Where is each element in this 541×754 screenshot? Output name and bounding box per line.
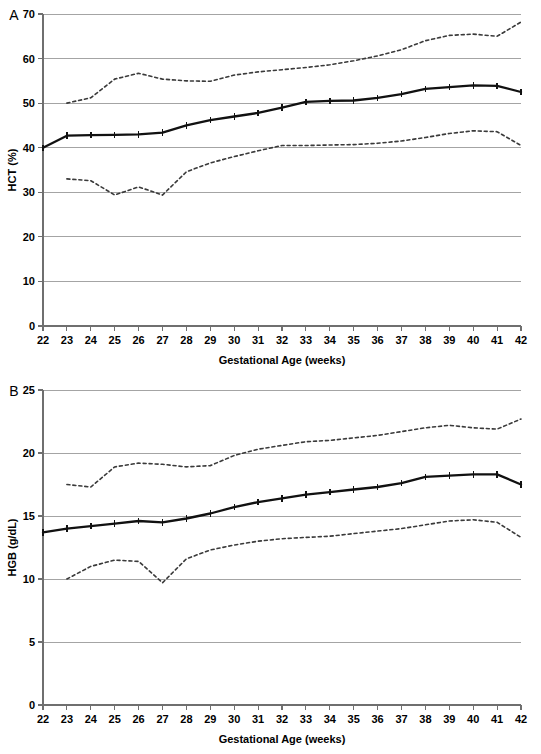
y-tick-label-15: 15 bbox=[23, 510, 35, 522]
x-tick-label-27: 27 bbox=[156, 334, 168, 346]
x-tick-label-42: 42 bbox=[515, 334, 527, 346]
x-tick-label-37: 37 bbox=[395, 713, 407, 725]
x-tick-label-39: 39 bbox=[443, 713, 455, 725]
y-tick-label-0: 0 bbox=[29, 699, 35, 711]
y-tick-label-70: 70 bbox=[23, 8, 35, 20]
x-tick-label-28: 28 bbox=[180, 713, 192, 725]
y-tick-label-5: 5 bbox=[29, 636, 35, 648]
series-line-95th-percentile bbox=[67, 22, 521, 103]
x-tick-label-25: 25 bbox=[109, 334, 121, 346]
x-axis-title: Gestational Age (weeks) bbox=[219, 733, 346, 745]
x-tick-label-30: 30 bbox=[228, 713, 240, 725]
y-tick-label-60: 60 bbox=[23, 53, 35, 65]
y-tick-label-25: 25 bbox=[23, 384, 35, 396]
x-tick-label-34: 34 bbox=[324, 713, 337, 725]
x-tick-label-32: 32 bbox=[276, 334, 288, 346]
x-tick-label-35: 35 bbox=[348, 713, 360, 725]
y-tick-label-30: 30 bbox=[23, 186, 35, 198]
x-axis-title: Gestational Age (weeks) bbox=[219, 354, 346, 366]
x-tick-label-39: 39 bbox=[443, 334, 455, 346]
series-line-5th-percentile bbox=[67, 520, 521, 583]
chart-panel-a: 0102030405060702223242526272829303132333… bbox=[0, 0, 541, 375]
y-tick-label-20: 20 bbox=[23, 447, 35, 459]
x-tick-label-31: 31 bbox=[252, 334, 264, 346]
y-tick-label-10: 10 bbox=[23, 573, 35, 585]
x-tick-label-23: 23 bbox=[61, 713, 73, 725]
y-tick-label-20: 20 bbox=[23, 231, 35, 243]
x-tick-label-28: 28 bbox=[180, 334, 192, 346]
y-tick-label-50: 50 bbox=[23, 97, 35, 109]
x-tick-label-22: 22 bbox=[37, 334, 49, 346]
y-tick-label-10: 10 bbox=[23, 275, 35, 287]
x-tick-label-33: 33 bbox=[300, 334, 312, 346]
x-tick-label-42: 42 bbox=[515, 713, 527, 725]
x-tick-label-26: 26 bbox=[132, 713, 144, 725]
chart-b-svg: 0510152025222324252627282930313233343536… bbox=[0, 375, 541, 754]
y-axis-title: HGB (g/dL) bbox=[6, 518, 18, 576]
x-tick-label-36: 36 bbox=[371, 713, 383, 725]
x-tick-label-41: 41 bbox=[491, 713, 503, 725]
x-tick-label-38: 38 bbox=[419, 334, 431, 346]
x-tick-label-32: 32 bbox=[276, 713, 288, 725]
y-axis-title: HCT (%) bbox=[6, 148, 18, 191]
x-tick-label-24: 24 bbox=[85, 713, 98, 725]
x-tick-label-29: 29 bbox=[204, 334, 216, 346]
y-tick-label-40: 40 bbox=[23, 142, 35, 154]
x-tick-label-22: 22 bbox=[37, 713, 49, 725]
x-tick-label-33: 33 bbox=[300, 713, 312, 725]
x-tick-label-38: 38 bbox=[419, 713, 431, 725]
series-line-5th-percentile bbox=[67, 131, 521, 195]
series-line-median bbox=[43, 85, 521, 147]
panel-letter: B bbox=[9, 383, 18, 399]
panel-letter: A bbox=[9, 7, 19, 23]
x-tick-label-24: 24 bbox=[85, 334, 98, 346]
x-tick-label-27: 27 bbox=[156, 713, 168, 725]
chart-panel-b: 0510152025222324252627282930313233343536… bbox=[0, 375, 541, 754]
x-tick-label-30: 30 bbox=[228, 334, 240, 346]
x-tick-label-36: 36 bbox=[371, 334, 383, 346]
x-tick-label-23: 23 bbox=[61, 334, 73, 346]
x-tick-label-40: 40 bbox=[467, 334, 479, 346]
x-tick-label-26: 26 bbox=[132, 334, 144, 346]
x-tick-label-37: 37 bbox=[395, 334, 407, 346]
x-tick-label-40: 40 bbox=[467, 713, 479, 725]
x-tick-label-29: 29 bbox=[204, 713, 216, 725]
x-tick-label-41: 41 bbox=[491, 334, 503, 346]
x-tick-label-35: 35 bbox=[348, 334, 360, 346]
figure-container: 0102030405060702223242526272829303132333… bbox=[0, 0, 541, 754]
x-tick-label-34: 34 bbox=[324, 334, 337, 346]
chart-a-svg: 0102030405060702223242526272829303132333… bbox=[0, 0, 541, 375]
x-tick-label-25: 25 bbox=[109, 713, 121, 725]
x-tick-label-31: 31 bbox=[252, 713, 264, 725]
y-tick-label-0: 0 bbox=[29, 320, 35, 332]
